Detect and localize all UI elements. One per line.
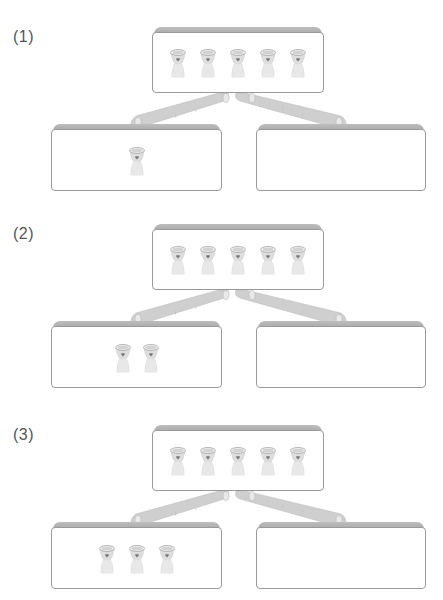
cup-with-heart-icon (169, 48, 187, 78)
problem-label: (1) (13, 28, 34, 46)
bottom-left-box (51, 124, 222, 191)
cup-with-heart-icon (199, 446, 217, 476)
top-box (152, 425, 324, 491)
problem-label: (2) (13, 225, 34, 243)
bottom-right-box (256, 321, 426, 388)
cup-group (51, 136, 222, 185)
problem-1: (1) (0, 0, 443, 200)
bottom-right-box (256, 124, 426, 191)
cup-with-heart-icon (158, 544, 176, 574)
problem-2: (2) (0, 197, 443, 397)
cup-group (51, 534, 222, 583)
cup-with-heart-icon (169, 245, 187, 275)
top-box (152, 224, 324, 290)
cup-with-heart-icon (229, 48, 247, 78)
problem-3: (3) (0, 398, 443, 598)
cup-with-heart-icon (199, 245, 217, 275)
cup-with-heart-icon (142, 343, 160, 373)
cup-with-heart-icon (259, 48, 277, 78)
cup-group (152, 437, 324, 485)
cup-with-heart-icon (98, 544, 116, 574)
bottom-left-box (51, 321, 222, 388)
cup-with-heart-icon (128, 544, 146, 574)
cup-with-heart-icon (114, 343, 132, 373)
cup-with-heart-icon (259, 245, 277, 275)
cup-with-heart-icon (199, 48, 217, 78)
cup-with-heart-icon (259, 446, 277, 476)
cup-group (256, 136, 426, 185)
cup-group (152, 236, 324, 284)
bottom-right-box (256, 522, 426, 589)
cup-with-heart-icon (128, 146, 146, 176)
cup-group (152, 39, 324, 87)
top-box (152, 27, 324, 93)
cup-with-heart-icon (289, 446, 307, 476)
cup-group (256, 333, 426, 382)
cup-with-heart-icon (229, 245, 247, 275)
cup-with-heart-icon (229, 446, 247, 476)
problem-label: (3) (13, 426, 34, 444)
cup-with-heart-icon (289, 48, 307, 78)
bottom-left-box (51, 522, 222, 589)
cup-group (51, 333, 222, 382)
cup-with-heart-icon (289, 245, 307, 275)
cup-with-heart-icon (169, 446, 187, 476)
cup-group (256, 534, 426, 583)
